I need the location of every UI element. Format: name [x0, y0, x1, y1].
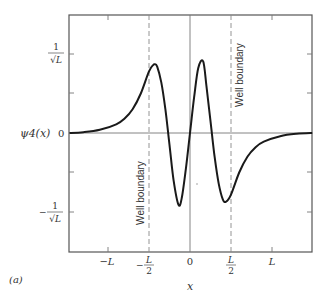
x-tick-pos-L: L: [268, 256, 276, 267]
y-neg-numerator: 1: [52, 201, 58, 211]
y-neg-denominator: √L: [49, 214, 61, 224]
x-pos-half-numerator: L: [227, 255, 234, 265]
y-tick-neg-label: − 1 √L: [39, 201, 63, 224]
y-tick-zero-label: 0: [58, 128, 64, 139]
y-axis-name: ψ4(x): [20, 127, 50, 140]
x-neg-half-numerator: L: [145, 255, 152, 265]
y-pos-denominator: √L: [50, 55, 62, 65]
wavefunction-figure: Well boundary Well boundary ψ4(x) 0 1 √L…: [0, 0, 332, 300]
x-tick-neg-half: − L 2: [136, 255, 154, 276]
x-tick-neg-L: −L: [99, 256, 114, 267]
y-neg-sign: −: [39, 207, 47, 217]
x-axis-name: x: [187, 280, 194, 293]
x-neg-half-sign: −: [136, 260, 144, 270]
y-tick-pos-label: 1 √L: [48, 42, 64, 65]
x-tick-zero: 0: [187, 256, 193, 267]
x-neg-half-denominator: 2: [146, 266, 152, 276]
figure-panel-label: (a): [9, 274, 23, 285]
x-tick-pos-half: L 2: [226, 255, 236, 276]
well-boundary-left-label: Well boundary: [135, 161, 146, 225]
well-boundary-right-label: Well boundary: [234, 43, 245, 107]
stray-dot: [196, 183, 198, 185]
y-pos-numerator: 1: [53, 42, 59, 52]
x-pos-half-denominator: 2: [228, 266, 234, 276]
